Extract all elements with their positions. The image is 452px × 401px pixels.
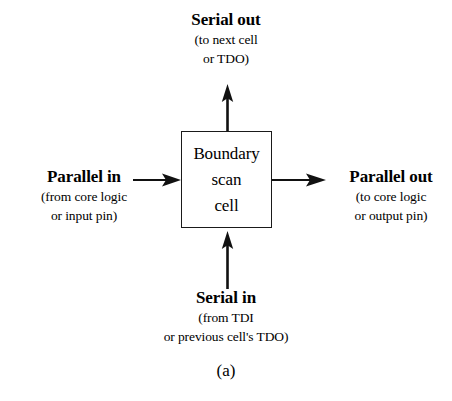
boundary-scan-cell-figure: Boundary scan cell Serial out (to next c… [0, 0, 452, 401]
parallel-in-label: Parallel in (from core logic or input pi… [0, 166, 168, 225]
cell-label-line-1: Boundary [193, 141, 259, 167]
parallel-out-title: Parallel out [330, 166, 452, 187]
serial-in-sub-line-1: (from TDI [0, 308, 452, 327]
serial-in-sub-line-2: or previous cell's TDO) [0, 327, 452, 346]
serial-in-title: Serial in [0, 287, 452, 308]
parallel-out-label: Parallel out (to core logic or output pi… [330, 166, 452, 225]
serial-out-title: Serial out [0, 9, 452, 30]
serial-in-label: Serial in (from TDI or previous cell's T… [0, 287, 452, 346]
cell-label-line-3: cell [214, 193, 238, 219]
boundary-scan-cell-box: Boundary scan cell [181, 131, 272, 228]
parallel-in-sub-line-2: or input pin) [0, 206, 168, 225]
parallel-in-sub-line-1: (from core logic [0, 187, 168, 206]
cell-label-line-2: scan [212, 167, 242, 193]
serial-out-sub-line-1: (to next cell [0, 30, 452, 49]
serial-out-sub-line-2: or TDO) [0, 49, 452, 68]
parallel-in-title: Parallel in [0, 166, 168, 187]
parallel-out-sub-line-2: or output pin) [330, 206, 452, 225]
figure-caption: (a) [0, 360, 452, 382]
parallel-out-sub-line-1: (to core logic [330, 187, 452, 206]
serial-out-label: Serial out (to next cell or TDO) [0, 9, 452, 68]
